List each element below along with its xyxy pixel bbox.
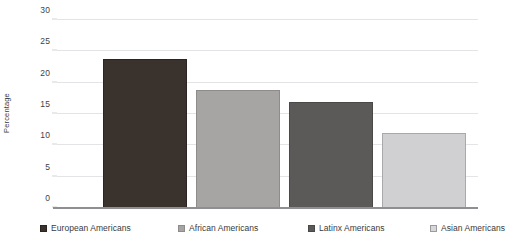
y-tick-label: 15 — [40, 99, 57, 109]
legend-item-label: European Americans — [51, 223, 131, 233]
bars-group — [57, 20, 478, 208]
legend-swatch-icon — [178, 225, 185, 232]
bar — [289, 102, 373, 208]
legend-item[interactable]: Latinx Americans — [308, 223, 385, 233]
y-tick-label: 5 — [45, 162, 57, 172]
legend-swatch-icon — [430, 225, 437, 232]
legend-swatch-icon — [308, 225, 315, 232]
bar — [103, 59, 187, 208]
plot-area: 051015202530 — [57, 20, 478, 208]
legend-item[interactable]: African Americans — [178, 223, 258, 233]
chart-legend: European AmericansAfrican AmericansLatin… — [40, 220, 470, 236]
legend-item[interactable]: European Americans — [40, 223, 131, 233]
x-axis-baseline — [53, 207, 478, 209]
legend-item[interactable]: Asian Americans — [430, 223, 505, 233]
bar-chart: Percentage 051015202530 European America… — [0, 0, 509, 241]
legend-swatch-icon — [40, 225, 47, 232]
legend-item-label: Latinx Americans — [319, 223, 385, 233]
y-tick-label: 30 — [40, 5, 57, 15]
y-tick-label: 25 — [40, 36, 57, 46]
y-tick-label: 0 — [45, 193, 57, 203]
bar — [382, 133, 466, 208]
y-axis-title: Percentage — [2, 63, 11, 163]
legend-item-label: African Americans — [189, 223, 258, 233]
y-tick-label: 10 — [40, 130, 57, 140]
y-tick-label: 20 — [40, 68, 57, 78]
legend-item-label: Asian Americans — [441, 223, 505, 233]
bar — [196, 90, 280, 208]
